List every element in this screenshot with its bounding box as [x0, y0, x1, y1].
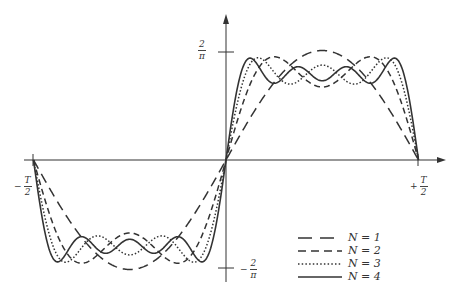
x-tick-label-left: − T2: [14, 176, 32, 197]
legend-item: N = 2: [296, 244, 381, 257]
legend-line-n1-icon: [296, 234, 344, 242]
plot-area: [0, 0, 458, 293]
legend-line-n4-icon: [296, 273, 344, 281]
legend-line-n2-icon: [296, 247, 344, 255]
y-tick-label-bottom: − 2π: [240, 259, 257, 280]
legend: N = 1 N = 2 N = 3 N = 4: [296, 231, 381, 283]
y-axis-arrow-icon: [223, 14, 229, 24]
legend-line-n3-icon: [296, 260, 344, 268]
legend-item: N = 4: [296, 270, 381, 283]
legend-item: N = 1: [296, 231, 381, 244]
legend-item: N = 3: [296, 257, 381, 270]
y-tick-label-top: 2π: [196, 40, 206, 61]
x-axis-arrow-icon: [437, 157, 446, 163]
x-tick-label-right: + T2: [410, 176, 428, 197]
